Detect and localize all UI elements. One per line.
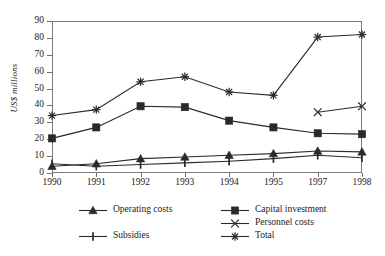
line-chart: US$ millions 0102030405060708090 1990199…: [0, 0, 385, 256]
legend: Operating costsSubsidies Capital investm…: [78, 203, 378, 253]
legend-label: Subsidies: [113, 230, 149, 241]
legend-marker-asterisk-icon: [220, 230, 250, 243]
series-line: [52, 35, 362, 116]
legend-sample: [220, 216, 250, 229]
legend-sample: [220, 203, 250, 216]
legend-sample: [78, 229, 108, 242]
series-total: [48, 30, 366, 119]
x-tick-label: 1993: [164, 177, 206, 187]
x-tick-label: 1998: [341, 177, 383, 187]
legend-marker-triangle-icon: [78, 204, 108, 217]
legend-sample: [78, 203, 108, 216]
legend-label: Capital investment: [255, 204, 327, 215]
x-tick-label: 1992: [120, 177, 162, 187]
series-personnel-costs: [314, 102, 366, 116]
legend-label: Personnel costs: [255, 217, 314, 228]
x-tick-label: 1991: [75, 177, 117, 187]
legend-sample: [220, 229, 250, 242]
legend-label: Total: [255, 230, 274, 241]
series-line: [318, 106, 362, 112]
legend-marker-ibar-icon: [78, 230, 108, 243]
x-tick-label: 1990: [31, 177, 73, 187]
x-tick-label: 1995: [252, 177, 294, 187]
x-tick-label: 1997: [297, 177, 339, 187]
x-tick-label: 1994: [208, 177, 250, 187]
legend-label: Operating costs: [113, 204, 172, 215]
